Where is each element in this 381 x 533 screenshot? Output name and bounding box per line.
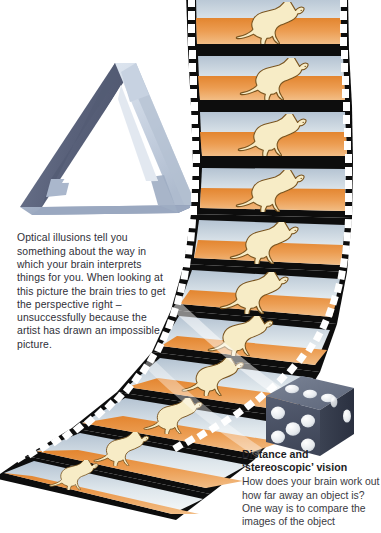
film-frame [191, 162, 353, 218]
film-frame [191, 106, 353, 162]
penrose-triangle-illustration [18, 55, 198, 223]
film-frame [152, 310, 337, 372]
film-frame [0, 456, 210, 520]
stereoscopic-vision-block: Distance and ‘stereoscopic’ vision How d… [242, 448, 381, 529]
heading-line-2: ‘stereoscopic’ vision [242, 461, 347, 473]
die-illustration [258, 372, 362, 460]
film-frame [171, 264, 347, 324]
stereoscopic-vision-heading: Distance and ‘stereoscopic’ vision [242, 448, 381, 474]
heading-line-1: Distance and [242, 448, 309, 460]
film-frame [188, 50, 352, 106]
film-frame [184, 214, 352, 272]
optical-illusion-paragraph: Optical illusions tell you something abo… [17, 231, 169, 351]
stereoscopic-vision-paragraph: How does your brain work out how far awa… [242, 475, 381, 528]
film-frame [186, 0, 349, 50]
film-frame [26, 427, 254, 494]
page-canvas: Optical illusions tell you something abo… [0, 0, 381, 533]
